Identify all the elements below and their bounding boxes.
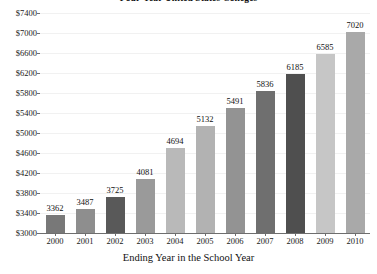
- bar-value-label: 3725: [101, 186, 130, 195]
- y-axis-tick-label: $4200: [1, 169, 37, 178]
- bar[interactable]: [346, 32, 365, 233]
- y-axis-tick-label: $6200: [1, 69, 37, 78]
- x-axis-tick-label: 2000: [40, 236, 70, 246]
- x-axis-tick-labels: 2000200120022003200420052006200720082009…: [40, 236, 370, 249]
- y-axis-tick: [37, 233, 40, 234]
- y-axis-tick: [37, 33, 40, 34]
- x-axis-tick: [115, 233, 116, 236]
- chart-screenshot: Four-Year United States Colleges $7400$7…: [0, 0, 377, 274]
- y-axis-tick: [37, 93, 40, 94]
- x-axis-tick: [295, 233, 296, 236]
- y-axis-tick: [37, 173, 40, 174]
- bar-value-label: 5132: [191, 115, 220, 124]
- y-axis-tick: [37, 13, 40, 14]
- x-axis-tick-label: 2007: [250, 236, 280, 246]
- bar[interactable]: [76, 209, 95, 233]
- x-axis-tick: [235, 233, 236, 236]
- y-axis-tick: [37, 113, 40, 114]
- x-axis-tick-label: 2002: [100, 236, 130, 246]
- plot-area: 3362348737254081469451325491583661856585…: [40, 13, 370, 233]
- bar[interactable]: [106, 197, 125, 233]
- y-axis-tick: [37, 73, 40, 74]
- x-axis-tick: [145, 233, 146, 236]
- bar[interactable]: [136, 179, 155, 233]
- x-axis-title: Ending Year in the School Year: [0, 252, 377, 263]
- bar-value-label: 4081: [131, 168, 160, 177]
- x-axis-tick-label: 2006: [220, 236, 250, 246]
- gridline: [40, 13, 370, 14]
- bar[interactable]: [316, 54, 335, 233]
- chart-title: Four-Year United States Colleges: [0, 0, 377, 3]
- y-axis-tick: [37, 193, 40, 194]
- y-axis-tick-label: $4600: [1, 149, 37, 158]
- bar[interactable]: [196, 126, 215, 233]
- y-axis-tick-labels: $7400$7000$6600$6200$5800$5400$5000$4600…: [0, 13, 37, 234]
- x-axis-tick: [355, 233, 356, 236]
- y-axis-tick: [37, 133, 40, 134]
- bar-value-label: 4694: [161, 137, 190, 146]
- x-axis-tick-label: 2009: [310, 236, 340, 246]
- y-axis-tick-label: $5400: [1, 109, 37, 118]
- bar[interactable]: [226, 108, 245, 233]
- bar-value-label: 3362: [41, 204, 70, 213]
- bar-value-label: 6185: [281, 63, 310, 72]
- y-axis-tick: [37, 213, 40, 214]
- y-axis-tick: [37, 53, 40, 54]
- x-axis-tick: [55, 233, 56, 236]
- x-axis-tick: [85, 233, 86, 236]
- x-axis-tick: [205, 233, 206, 236]
- y-axis-tick-label: $7000: [1, 29, 37, 38]
- x-axis-tick-label: 2008: [280, 236, 310, 246]
- y-axis-tick-label: $5800: [1, 89, 37, 98]
- gridline: [40, 33, 370, 34]
- bar-value-label: 5836: [251, 80, 280, 89]
- x-axis-tick: [175, 233, 176, 236]
- y-axis-tick-label: $5000: [1, 129, 37, 138]
- bar[interactable]: [166, 148, 185, 233]
- x-axis-tick-label: 2003: [130, 236, 160, 246]
- bar-value-label: 7020: [341, 21, 370, 30]
- bar-value-label: 5491: [221, 97, 250, 106]
- x-axis-tick-label: 2010: [340, 236, 370, 246]
- y-axis-tick-label: $3400: [1, 209, 37, 218]
- bar-value-label: 3487: [71, 198, 100, 207]
- y-axis-tick-label: $6600: [1, 49, 37, 58]
- bar-value-label: 6585: [311, 43, 340, 52]
- x-axis-tick-label: 2004: [160, 236, 190, 246]
- x-axis-tick: [325, 233, 326, 236]
- x-axis-tick-label: 2005: [190, 236, 220, 246]
- y-axis-tick-label: $7400: [1, 9, 37, 18]
- x-axis-tick: [265, 233, 266, 236]
- bar[interactable]: [286, 74, 305, 233]
- y-axis-tick-label: $3800: [1, 189, 37, 198]
- y-axis-tick-label: $3000: [1, 229, 37, 238]
- x-axis-tick-label: 2001: [70, 236, 100, 246]
- bar[interactable]: [46, 215, 65, 233]
- y-axis-tick: [37, 153, 40, 154]
- bar[interactable]: [256, 91, 275, 233]
